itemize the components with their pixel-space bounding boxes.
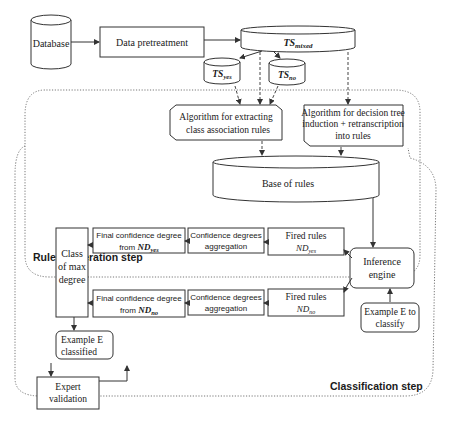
svg-text:Expert: Expert	[55, 382, 81, 392]
solid-connectors	[51, 40, 390, 381]
base-of-rules-node: Base of rules	[213, 156, 379, 202]
database-node: Database	[31, 15, 71, 69]
algo-decision-tree-node: Algorithm for decision tree induction + …	[301, 105, 405, 146]
expert-validation-node: Expert validation	[37, 377, 99, 409]
svg-text:validation: validation	[49, 394, 87, 404]
fired-rules-yes-node: Fired rules NDyes	[268, 228, 344, 255]
svg-text:Base of rules: Base of rules	[262, 178, 314, 189]
svg-text:induction + retranscription: induction + retranscription	[302, 119, 404, 129]
svg-text:classified: classified	[61, 347, 97, 357]
svg-text:Confidence degrees: Confidence degrees	[190, 293, 262, 302]
final-confidence-no-node: Final confidence degree from NDno	[93, 290, 185, 317]
ts-mixed-node: TSmixed	[241, 26, 355, 52]
svg-text:Final confidence degree: Final confidence degree	[96, 294, 182, 303]
svg-text:Fired rules: Fired rules	[286, 231, 327, 241]
final-confidence-yes-node: Final confidence degree from NDyes	[93, 228, 185, 253]
svg-text:Data pretreatment: Data pretreatment	[116, 37, 188, 48]
svg-text:Fired rules: Fired rules	[286, 292, 327, 302]
svg-text:Example E to: Example E to	[364, 307, 416, 317]
inference-engine-node: Inference engine	[350, 248, 414, 288]
aggregation-yes-node: Confidence degrees aggregation	[188, 228, 264, 253]
rule-classification-flow-diagram: Rules generation step Classification ste…	[0, 0, 450, 426]
svg-text:class association rules: class association rules	[186, 125, 270, 135]
ts-yes-node: TSyes	[204, 58, 240, 84]
example-to-classify-node: Example E to classify	[361, 303, 419, 332]
svg-text:Algorithm for decision tree: Algorithm for decision tree	[301, 108, 405, 118]
aggregation-no-node: Confidence degrees aggregation	[188, 290, 264, 315]
svg-text:Algorithm for extracting: Algorithm for extracting	[179, 112, 273, 122]
data-pretreatment-node: Data pretreatment	[100, 27, 204, 57]
svg-text:classify: classify	[375, 319, 404, 329]
classification-label: Classification step	[330, 380, 423, 392]
algo-class-association-node: Algorithm for extracting class associati…	[170, 105, 282, 140]
svg-text:aggregation: aggregation	[205, 304, 247, 313]
svg-text:Example E: Example E	[61, 335, 103, 345]
svg-text:degree: degree	[59, 274, 86, 285]
svg-text:Database: Database	[33, 38, 70, 49]
svg-text:Class: Class	[61, 248, 83, 259]
ts-no-node: TSno	[269, 59, 305, 85]
svg-text:Final confidence degree: Final confidence degree	[96, 231, 182, 240]
svg-text:Inference: Inference	[363, 256, 401, 267]
fired-rules-no-node: Fired rules NDno	[268, 289, 344, 316]
svg-text:of max: of max	[58, 261, 86, 272]
example-classified-node: Example E classified	[56, 331, 113, 359]
svg-text:Confidence degrees: Confidence degrees	[190, 231, 262, 240]
svg-text:engine: engine	[369, 269, 396, 280]
svg-text:into rules: into rules	[335, 131, 371, 141]
svg-text:aggregation: aggregation	[205, 242, 247, 251]
class-max-degree-node: Class of max degree	[56, 228, 88, 317]
